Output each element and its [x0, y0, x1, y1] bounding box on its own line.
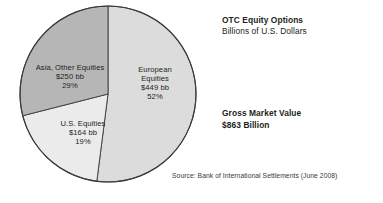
- pie-label-european-equities: European Equities $449 bb 52%: [122, 66, 188, 102]
- chart-title: OTC Equity Options: [222, 15, 383, 26]
- chart-figure: Asia, Other Equities $250 bb 29% Europea…: [0, 0, 383, 203]
- gross-market-value-amount: $863 Billion: [222, 120, 383, 132]
- pie-label-us-percent: 19%: [40, 138, 126, 147]
- chart-subtitle: Billions of U.S. Dollars: [222, 26, 383, 37]
- chart-heading: OTC Equity Options Billions of U.S. Doll…: [222, 15, 383, 38]
- pie-label-european-percent: 52%: [122, 93, 188, 102]
- pie-label-us-equities: U.S. Equities $164 bb 19%: [40, 120, 126, 147]
- gross-market-value-label: Gross Market Value: [222, 108, 383, 120]
- pie-label-asia-other-equities: Asia, Other Equities $250 bb 29%: [16, 64, 124, 91]
- source-note: Source: Bank of International Settlement…: [172, 172, 383, 179]
- gross-market-value-block: Gross Market Value $863 Billion: [222, 108, 383, 132]
- pie-label-asia-percent: 29%: [16, 82, 124, 91]
